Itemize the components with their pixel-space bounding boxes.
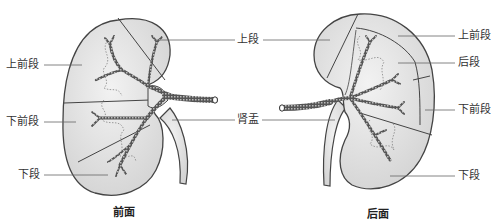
back-label-posterior: 后段	[458, 57, 480, 69]
front-ureter	[160, 108, 188, 184]
back-label-upper-anterior: 上前段	[458, 30, 491, 42]
front-label-lower-anterior: 下前段	[6, 116, 39, 128]
label-pelvis: 肾盂	[237, 114, 259, 126]
back-label-lower: 下段	[458, 170, 480, 182]
caption-front-view: 前面	[113, 203, 135, 219]
back-label-lower-anterior: 下前段	[458, 104, 491, 116]
front-artery-end	[213, 97, 218, 103]
back-artery-end	[280, 105, 285, 111]
renal-segments-diagram: 上前段 下前段 下段 上段 肾盂 上前段 后段 下前段 下段 前面 后面	[0, 0, 496, 221]
front-label-lower: 下段	[18, 169, 40, 181]
front-label-upper-anterior: 上前段	[6, 59, 39, 71]
label-upper: 上段	[237, 34, 259, 46]
front-kidney	[63, 18, 218, 195]
caption-back-view: 后面	[367, 205, 389, 221]
